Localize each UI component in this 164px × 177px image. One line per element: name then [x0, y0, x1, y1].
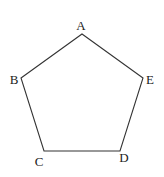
pentagon-diagram: A E D C B — [0, 0, 164, 177]
vertex-label-d: D — [119, 150, 128, 165]
pentagon-shape — [21, 34, 143, 151]
vertex-label-c: C — [35, 154, 44, 169]
vertex-label-b: B — [10, 72, 19, 87]
vertex-label-a: A — [76, 18, 86, 33]
vertex-label-e: E — [146, 72, 154, 87]
